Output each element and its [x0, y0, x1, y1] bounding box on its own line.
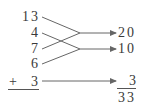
partial-sum-10: 10 — [118, 42, 136, 56]
total-sum: 33 — [118, 91, 136, 105]
partial-sum-3: 3 — [116, 74, 136, 88]
line-6-to-10 — [42, 49, 80, 64]
partial-sum-20: 20 — [118, 26, 136, 40]
line-13-to-20 — [42, 17, 80, 33]
right-sum-line — [117, 88, 136, 89]
